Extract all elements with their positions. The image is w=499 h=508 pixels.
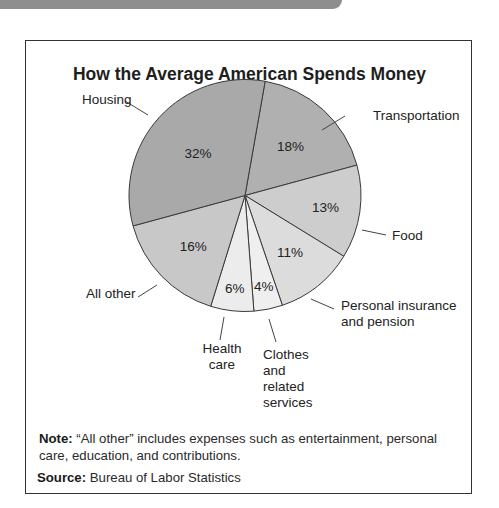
callout-health-2: care xyxy=(209,357,235,372)
chart-source: Source: Bureau of Labor Statistics xyxy=(37,470,241,485)
callout-housing: Housing xyxy=(82,92,132,107)
callout-all-other: All other xyxy=(86,286,136,301)
leader-all-other xyxy=(138,285,157,297)
callout-clothes-4: services xyxy=(263,395,313,410)
source-label: Source: xyxy=(37,470,86,485)
note-text: “All other” includes expenses such as en… xyxy=(39,431,437,463)
pie-slices xyxy=(129,79,361,311)
percent-label: 13% xyxy=(312,200,339,215)
percent-label: 6% xyxy=(225,281,245,296)
callout-health-1: Health xyxy=(202,341,241,356)
percent-label: 32% xyxy=(184,146,211,161)
chart-note: Note: “All other” includes expenses such… xyxy=(39,430,469,464)
callout-clothes-2: and xyxy=(263,363,286,378)
callout-transportation: Transportation xyxy=(373,108,460,123)
leader-health-care xyxy=(220,317,224,340)
leader-food xyxy=(362,230,386,235)
percent-label: 11% xyxy=(277,245,303,260)
percent-label: 4% xyxy=(254,279,274,294)
callout-clothes-3: related xyxy=(263,379,304,394)
callout-food: Food xyxy=(392,228,423,243)
note-label: Note: xyxy=(39,431,73,446)
callout-personal-insurance-1: Personal insurance xyxy=(341,298,457,313)
leader-clothes xyxy=(269,319,276,342)
leader-personal-insurance xyxy=(311,299,334,309)
percent-label: 18% xyxy=(277,139,304,154)
percent-label: 16% xyxy=(180,239,207,254)
callout-personal-insurance-2: and pension xyxy=(341,314,415,329)
callout-clothes-1: Clothes xyxy=(263,347,309,362)
source-text: Bureau of Labor Statistics xyxy=(86,470,241,485)
